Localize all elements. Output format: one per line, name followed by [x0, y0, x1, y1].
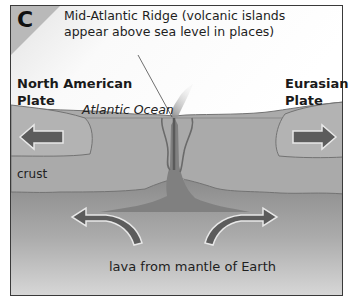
crust-label: crust — [17, 167, 47, 181]
panel-letter: C — [17, 7, 33, 32]
eu-label-line-1: Eurasian — [285, 75, 349, 92]
eu-label-line-2: Plate — [285, 92, 349, 109]
diagram-panel — [10, 5, 343, 296]
na-label-line-1: North American — [17, 75, 132, 92]
ridge-label-line-1: Mid-Atlantic Ridge (volcanic islands — [64, 8, 285, 24]
lava-label: lava from mantle of Earth — [109, 259, 276, 274]
atlantic-ocean-label: Atlantic Ocean — [82, 102, 174, 117]
ridge-label-line-2: appear above sea level in places) — [64, 24, 285, 40]
mid-atlantic-ridge-label: Mid-Atlantic Ridge (volcanic islands app… — [64, 8, 285, 40]
scene-illustration — [11, 6, 343, 296]
eurasian-plate-label: Eurasian Plate — [285, 75, 349, 109]
